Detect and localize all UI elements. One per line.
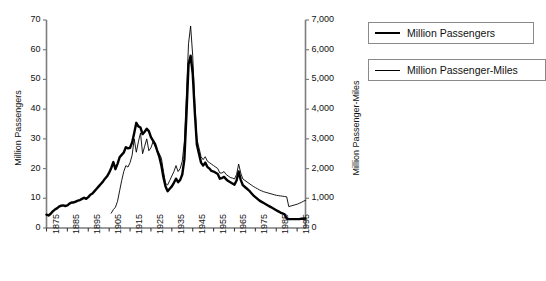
x-axis-tick-label: 1965: [238, 190, 248, 234]
legend-item-million-passengers[interactable]: Million Passengers: [368, 22, 534, 44]
y-axis-right-tick-label: 4,000: [312, 103, 352, 113]
series-line-million-passenger-miles: [111, 26, 305, 213]
legend-label: Million Passenger-Miles: [407, 64, 518, 76]
x-axis-tick-label: 1925: [155, 190, 165, 234]
x-axis-tick-label: 1905: [113, 190, 123, 234]
y-axis-left-tick-label: 70: [5, 14, 41, 24]
x-axis-tick-label: 1875: [51, 190, 61, 234]
y-axis-left-tick-label: 20: [5, 163, 41, 173]
legend-item-million-passenger-miles[interactable]: Million Passenger-Miles: [368, 59, 546, 81]
x-axis-tick-label: 1895: [92, 190, 102, 234]
x-axis-tick-label: 1915: [134, 190, 144, 234]
x-axis-tick-label: 1985: [280, 190, 290, 234]
y-axis-left-tick-label: 0: [5, 222, 41, 232]
x-axis-tick-label: 1945: [197, 190, 207, 234]
y-axis-left-tick-label: 40: [5, 103, 41, 113]
x-axis-tick-label: 1975: [259, 190, 269, 234]
x-axis-tick-label: 1885: [71, 190, 81, 234]
legend-line-swatch-thin: [375, 65, 400, 75]
y-axis-right-tick-label: 0: [312, 222, 352, 232]
x-axis-tick-label: 1955: [218, 190, 228, 234]
y-axis-right-tick-label: 5,000: [312, 73, 352, 83]
y-axis-left-tick-label: 30: [5, 133, 41, 143]
y-axis-right-tick-label: 7,000: [312, 14, 352, 24]
y-axis-right-tick-label: 2,000: [312, 163, 352, 173]
y-axis-right-tick-label: 3,000: [312, 133, 352, 143]
x-axis-tick-label: 1995: [301, 190, 311, 234]
x-axis-tick-label: 1935: [176, 190, 186, 234]
y-axis-left-tick-label: 60: [5, 44, 41, 54]
chart-figure: Million Passengers Million Passenger-Mil…: [0, 0, 546, 281]
legend-label: Million Passengers: [407, 27, 495, 39]
y-axis-right-title: Million Passenger-Miles: [351, 63, 361, 193]
y-axis-right-tick-label: 1,000: [312, 192, 352, 202]
y-axis-left-tick-label: 10: [5, 192, 41, 202]
y-axis-left-tick-label: 50: [5, 73, 41, 83]
y-axis-right-tick-label: 6,000: [312, 44, 352, 54]
legend-line-swatch-thick: [375, 28, 400, 38]
